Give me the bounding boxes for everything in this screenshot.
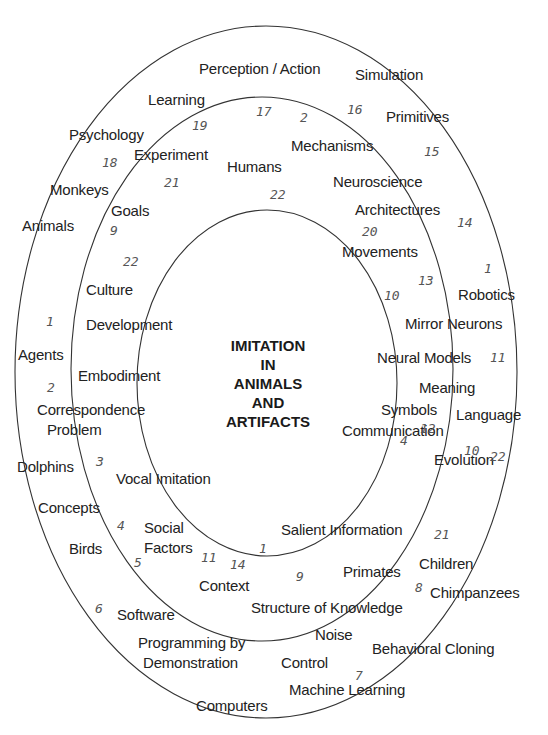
topic-label: Robotics	[458, 286, 515, 303]
topic-label: Structure of Knowledge	[251, 599, 403, 616]
reference-number: 2	[47, 380, 55, 395]
topic-label: Perception / Action	[199, 60, 320, 77]
title-line: ARTIFACTS	[208, 412, 328, 431]
diagram-title: IMITATION IN ANIMALS AND ARTIFACTS	[208, 336, 328, 431]
topic-label: Symbols	[381, 401, 437, 418]
topic-label: Context	[199, 577, 249, 594]
reference-number: 10	[464, 443, 480, 458]
topic-label: Culture	[86, 281, 133, 298]
topic-label: Learning	[148, 91, 205, 108]
reference-number: 21	[164, 175, 180, 190]
title-line: AND	[208, 393, 328, 412]
topic-label: Language	[456, 406, 521, 423]
topic-label: Chimpanzees	[430, 584, 520, 601]
reference-number: 14	[230, 557, 246, 572]
topic-label: Primitives	[386, 108, 449, 125]
reference-number: 11	[490, 350, 506, 365]
reference-number: 16	[347, 102, 363, 117]
title-line: ANIMALS	[208, 374, 328, 393]
topic-label: Embodiment	[78, 367, 160, 384]
reference-number: 18	[102, 155, 118, 170]
topic-label: Experiment	[134, 146, 208, 163]
title-line: IN	[208, 355, 328, 374]
topic-label: Goals	[111, 202, 149, 219]
reference-number: 1	[259, 541, 267, 556]
topic-label: Meaning	[419, 379, 475, 396]
reference-number: 17	[256, 104, 272, 119]
topic-label: Monkeys	[50, 181, 109, 198]
reference-number: 10	[384, 288, 400, 303]
reference-number: 19	[192, 118, 208, 133]
reference-number: 9	[110, 223, 118, 238]
reference-number: 9	[296, 569, 304, 584]
topic-label: Machine Learning	[289, 681, 405, 698]
topic-label: Neural Models	[377, 349, 471, 366]
topic-label: Movements	[342, 243, 418, 260]
reference-number: 15	[424, 144, 440, 159]
reference-number: 1	[484, 261, 492, 276]
topic-label: Salient Information	[281, 521, 402, 538]
topic-label: Animals	[22, 217, 74, 234]
reference-number: 22	[490, 449, 506, 464]
topic-label: Humans	[227, 158, 282, 175]
topic-label: Development	[86, 316, 172, 333]
topic-label: Social	[144, 519, 184, 536]
reference-number: 12	[420, 421, 436, 436]
reference-number: 13	[418, 273, 434, 288]
topic-label: Agents	[18, 346, 64, 363]
reference-number: 14	[457, 215, 473, 230]
topic-label: Behavioral Cloning	[372, 640, 494, 657]
reference-number: 22	[270, 187, 286, 202]
topic-label: Mirror Neurons	[405, 315, 502, 332]
topic-label: Concepts	[38, 499, 100, 516]
reference-number: 3	[96, 454, 104, 469]
topic-label: Primates	[343, 563, 401, 580]
topic-label: Birds	[69, 540, 102, 557]
topic-label: Problem	[47, 421, 101, 438]
reference-number: 1	[46, 314, 54, 329]
reference-number: 21	[434, 527, 450, 542]
topic-label: Demonstration	[143, 654, 238, 671]
title-line: IMITATION	[208, 336, 328, 355]
reference-number: 4	[400, 433, 408, 448]
imitation-diagram: IMITATION IN ANIMALS AND ARTIFACTS Perce…	[0, 0, 548, 735]
topic-label: Control	[281, 654, 328, 671]
topic-label: Children	[419, 555, 473, 572]
reference-number: 2	[300, 110, 308, 125]
topic-label: Correspondence	[37, 401, 145, 418]
reference-number: 22	[123, 254, 139, 269]
reference-number: 4	[117, 518, 125, 533]
topic-label: Psychology	[69, 126, 144, 143]
topic-label: Dolphins	[17, 458, 74, 475]
topic-label: Noise	[315, 626, 352, 643]
reference-number: 7	[355, 668, 363, 683]
topic-label: Simulation	[355, 66, 423, 83]
topic-label: Computers	[196, 697, 268, 714]
topic-label: Vocal Imitation	[116, 470, 211, 487]
topic-label: Mechanisms	[291, 137, 373, 154]
topic-label: Neuroscience	[333, 173, 422, 190]
reference-number: 20	[362, 224, 378, 239]
reference-number: 6	[95, 601, 103, 616]
reference-number: 8	[415, 580, 423, 595]
reference-number: 11	[201, 550, 217, 565]
reference-number: 5	[134, 555, 142, 570]
topic-label: Factors	[144, 539, 193, 556]
topic-label: Software	[117, 606, 175, 623]
topic-label: Programming by	[138, 634, 245, 651]
topic-label: Architectures	[355, 201, 440, 218]
